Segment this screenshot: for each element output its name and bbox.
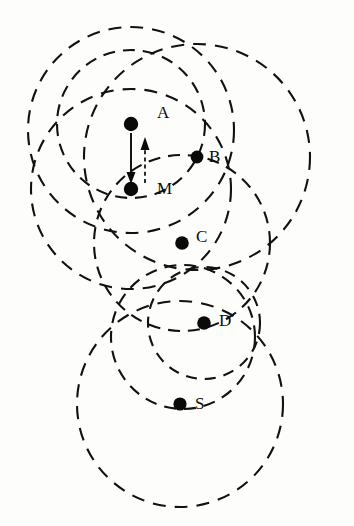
transmission-range-circles [28, 27, 310, 507]
node-dot-M [124, 182, 138, 196]
node-dot-A [124, 117, 138, 131]
node-label-B: B [209, 147, 220, 166]
node-S [173, 397, 186, 410]
node-dot-B [191, 151, 204, 164]
node-label-M: M [157, 179, 172, 198]
node-C [175, 236, 189, 250]
node-D [197, 316, 211, 330]
node-label-S: S [195, 394, 204, 413]
diagram-canvas: A B M C D S [0, 0, 354, 526]
range-circle-S-inner [111, 265, 255, 409]
node-dot-C [175, 236, 189, 250]
node-label-D: D [219, 311, 231, 330]
node-dot-S [173, 397, 186, 410]
node-label-A: A [157, 103, 170, 122]
node-dot-D [197, 316, 211, 330]
arrow-m-to-a-head [141, 137, 150, 150]
arrow-a-to-m [127, 133, 136, 184]
figure-container: A B M C D S [0, 0, 354, 526]
arrow-m-to-a [141, 137, 150, 183]
node-M [124, 182, 138, 196]
node-B [191, 151, 204, 164]
node-label-C: C [196, 227, 207, 246]
node-A [124, 117, 138, 131]
